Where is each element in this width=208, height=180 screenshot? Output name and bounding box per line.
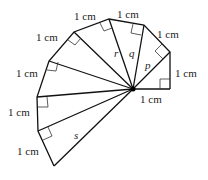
label-p: p (144, 59, 151, 71)
label-r: r (114, 47, 119, 59)
label-edge-4: 1 cm (117, 8, 139, 20)
center-point (131, 87, 136, 92)
label-s: s (74, 129, 78, 141)
label-edge-3: 1 cm (157, 28, 179, 40)
label-edge-2: 1 cm (175, 67, 197, 79)
label-edge-5: 1 cm (74, 10, 96, 22)
label-q: q (129, 47, 135, 59)
label-edge-9: 1 cm (17, 145, 39, 157)
label-edge-6: 1 cm (36, 31, 58, 43)
label-edge-7: 1 cm (16, 67, 38, 79)
label-edge-1: 1 cm (140, 93, 162, 105)
label-edge-8: 1 cm (8, 106, 30, 118)
spiral-diagram: 1 cm 1 cm 1 cm 1 cm 1 cm 1 cm 1 cm 1 cm … (0, 0, 208, 180)
